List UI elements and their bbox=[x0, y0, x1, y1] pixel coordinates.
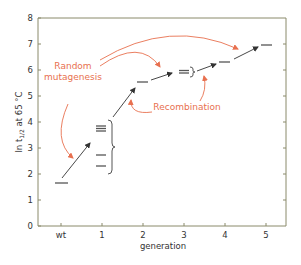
brace-gen1 bbox=[108, 120, 115, 174]
y-tick-label: 3 bbox=[28, 143, 33, 153]
selection-braces bbox=[108, 67, 195, 174]
arrow-gen1-to-gen2 bbox=[113, 88, 135, 117]
brace-gen3 bbox=[190, 67, 195, 77]
arrow-random-to-gen5 bbox=[100, 36, 238, 60]
y-tick-label: 1 bbox=[28, 195, 33, 205]
arrow-gen2-to-gen3 bbox=[151, 73, 172, 80]
y-tick-label: 4 bbox=[28, 117, 33, 127]
x-axis: wt 1 2 3 4 5 generation bbox=[56, 223, 269, 251]
y-tick-label: 2 bbox=[28, 169, 33, 179]
y-axis-title: ln t1/2 at 65 °C bbox=[14, 91, 25, 152]
annotation-random-mutagenesis: mutagenesis bbox=[44, 72, 102, 82]
x-tick-label: 5 bbox=[263, 230, 268, 240]
y-tick-label: 0 bbox=[28, 221, 33, 231]
y-tick-label: 7 bbox=[28, 39, 33, 49]
y-tick-label: 8 bbox=[28, 13, 33, 23]
x-tick-label: wt bbox=[56, 230, 67, 240]
x-tick-label: 3 bbox=[181, 230, 186, 240]
y-axis: 0 1 2 3 4 5 6 7 8 ln t1/2 at 65 °C bbox=[14, 13, 286, 231]
arrow-wt-to-gen1 bbox=[62, 143, 90, 178]
x-axis-title: generation bbox=[140, 241, 186, 251]
y-tick-label: 6 bbox=[28, 65, 33, 75]
arrow-gen3-to-gen4 bbox=[197, 64, 216, 71]
arrow-random-to-gen1 bbox=[61, 104, 73, 158]
annotation-random-mutagenesis: Random bbox=[54, 61, 91, 71]
annotation-arrows bbox=[61, 36, 238, 158]
arrow-recomb-to-gen2 bbox=[131, 100, 152, 113]
x-tick-label: 4 bbox=[222, 230, 227, 240]
chart-canvas: 0 1 2 3 4 5 6 7 8 ln t1/2 at 65 °C wt 1 … bbox=[0, 0, 301, 265]
x-tick-label: 2 bbox=[140, 230, 145, 240]
x-tick-label: 1 bbox=[99, 230, 104, 240]
annotation-recombination: Recombination bbox=[153, 102, 220, 112]
y-tick-label: 5 bbox=[28, 91, 33, 101]
plot-frame bbox=[38, 18, 286, 226]
arrow-recomb-to-gen4 bbox=[200, 76, 205, 101]
